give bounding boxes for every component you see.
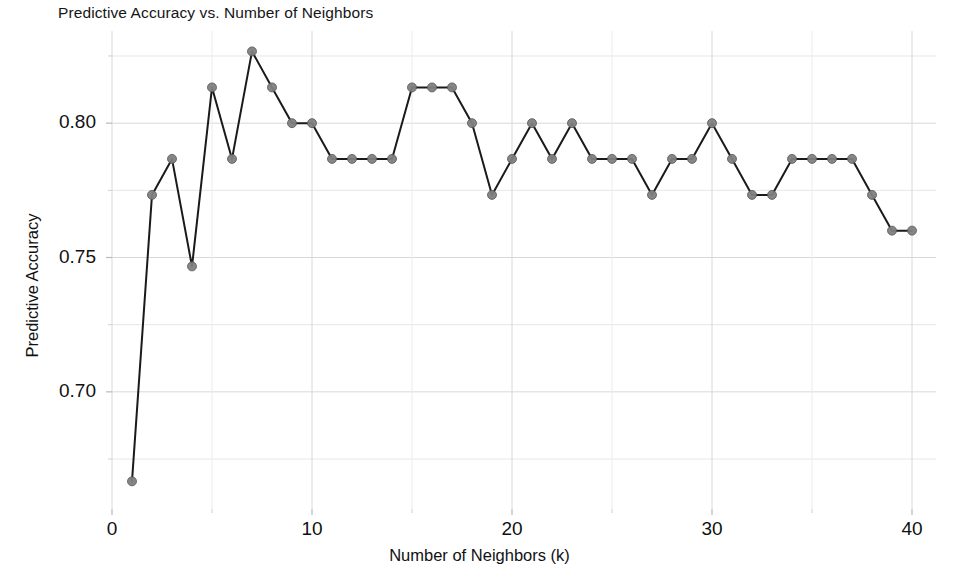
data-point-marker bbox=[588, 154, 597, 163]
data-point-marker bbox=[748, 190, 757, 199]
x-axis-tick-label: 40 bbox=[862, 518, 959, 540]
data-point-marker bbox=[448, 83, 457, 92]
data-point-marker bbox=[148, 190, 157, 199]
y-axis-tick-label: 0.70 bbox=[4, 380, 96, 402]
data-point-marker bbox=[668, 154, 677, 163]
data-point-marker bbox=[828, 154, 837, 163]
y-axis-tick-label: 0.75 bbox=[4, 246, 96, 268]
axis-ticks-x bbox=[112, 509, 912, 515]
gridlines-major-x bbox=[112, 31, 912, 509]
x-axis-tick-label: 0 bbox=[62, 518, 162, 540]
data-point-marker bbox=[408, 83, 417, 92]
data-point-marker bbox=[488, 190, 497, 199]
data-point-marker bbox=[788, 154, 797, 163]
data-point-marker bbox=[608, 154, 617, 163]
data-point-marker bbox=[508, 154, 517, 163]
data-point-marker bbox=[128, 477, 137, 486]
data-point-marker bbox=[288, 119, 297, 128]
data-line-series bbox=[132, 51, 912, 481]
data-point-marker bbox=[368, 154, 377, 163]
axis-ticks-y bbox=[106, 56, 112, 459]
data-point-marker bbox=[528, 119, 537, 128]
x-axis-tick-label: 30 bbox=[662, 518, 762, 540]
data-point-marker bbox=[468, 119, 477, 128]
data-point-marker bbox=[208, 83, 217, 92]
data-point-marker bbox=[628, 154, 637, 163]
data-point-marker bbox=[228, 154, 237, 163]
x-axis-label: Number of Neighbors (k) bbox=[0, 546, 959, 565]
y-axis-label: Predictive Accuracy bbox=[23, 186, 42, 386]
data-point-marker bbox=[688, 154, 697, 163]
data-point-marker bbox=[388, 154, 397, 163]
data-point-marker bbox=[908, 226, 917, 235]
data-point-marker bbox=[648, 190, 657, 199]
chart-figure: Predictive Accuracy vs. Number of Neighb… bbox=[0, 0, 959, 580]
data-point-marker bbox=[568, 119, 577, 128]
data-point-marker bbox=[728, 154, 737, 163]
data-point-marker bbox=[308, 119, 317, 128]
data-point-marker bbox=[848, 154, 857, 163]
data-point-markers bbox=[128, 47, 917, 486]
data-point-marker bbox=[268, 83, 277, 92]
data-point-marker bbox=[348, 154, 357, 163]
data-point-marker bbox=[188, 262, 197, 271]
data-point-marker bbox=[248, 47, 257, 56]
plot-area bbox=[0, 0, 959, 580]
data-point-marker bbox=[328, 154, 337, 163]
data-point-marker bbox=[768, 190, 777, 199]
x-axis-tick-label: 20 bbox=[462, 518, 562, 540]
data-point-marker bbox=[808, 154, 817, 163]
series-line-predictive-accuracy bbox=[132, 51, 912, 481]
data-point-marker bbox=[168, 154, 177, 163]
data-point-marker bbox=[708, 119, 717, 128]
data-point-marker bbox=[548, 154, 557, 163]
data-point-marker bbox=[428, 83, 437, 92]
y-axis-tick-label: 0.80 bbox=[4, 111, 96, 133]
data-point-marker bbox=[868, 190, 877, 199]
data-point-marker bbox=[888, 226, 897, 235]
x-axis-tick-label: 10 bbox=[262, 518, 362, 540]
